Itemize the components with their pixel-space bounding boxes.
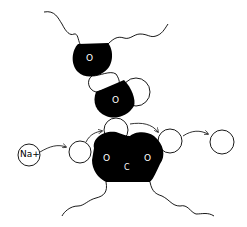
chain-bottom-right (150, 182, 214, 216)
diagram-svg (0, 0, 247, 227)
arrow-4 (183, 131, 208, 136)
site-circle-1 (69, 141, 91, 163)
carbon-label: C (124, 164, 130, 172)
sodium-ion-label: Na+ (20, 150, 40, 159)
site-circle-4 (210, 130, 234, 154)
arrow-1 (40, 146, 66, 152)
diagram-canvas: O O O C O Na+ (0, 0, 247, 227)
chain-top-right (108, 24, 168, 44)
oxygen-bottom-label: O (112, 96, 119, 105)
arrow-3 (130, 123, 158, 132)
oxygen-left-label: O (103, 154, 110, 163)
chain-bottom-left (62, 182, 107, 216)
chain-top-left (44, 12, 80, 44)
oxygen-right-label: O (144, 154, 151, 163)
oxygen-top-label: O (86, 54, 93, 63)
